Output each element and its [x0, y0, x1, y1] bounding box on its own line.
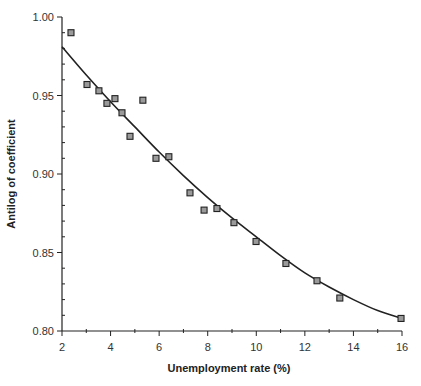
x-tick-label: 2 [59, 341, 65, 353]
y-tick-label: 0.90 [33, 168, 54, 180]
data-point-marker [231, 220, 237, 226]
x-tick-label: 10 [250, 341, 262, 353]
data-point-marker [283, 260, 289, 266]
y-tick-label: 0.95 [33, 90, 54, 102]
data-point-marker [84, 82, 90, 88]
data-point-marker [253, 239, 259, 245]
x-axis-title: Unemployment rate (%) [168, 362, 291, 374]
data-point-marker [68, 30, 74, 36]
x-tick-label: 14 [347, 341, 359, 353]
data-point-marker [314, 278, 320, 284]
x-tick-label: 8 [205, 341, 211, 353]
y-tick-label: 1.00 [33, 11, 54, 23]
data-point-marker [119, 110, 125, 116]
data-point-marker [104, 100, 110, 106]
x-tick-label: 16 [396, 341, 408, 353]
y-axis-title: Antilog of coefficient [5, 119, 17, 229]
data-point-marker [337, 295, 343, 301]
x-tick-label: 12 [299, 341, 311, 353]
data-point-marker [112, 96, 118, 102]
data-point-marker [153, 155, 159, 161]
x-tick-label: 4 [108, 341, 114, 353]
data-point-marker [398, 315, 404, 321]
y-tick-label: 0.80 [33, 325, 54, 337]
x-tick-label: 6 [156, 341, 162, 353]
plot-area [62, 30, 404, 322]
data-point-marker [166, 154, 172, 160]
data-point-marker [140, 97, 146, 103]
data-point-marker [96, 88, 102, 94]
y-tick-label: 0.85 [33, 247, 54, 259]
fitted-curve [62, 47, 402, 319]
data-point-marker [127, 133, 133, 139]
axes: 0.800.850.900.951.00 246810121416 [33, 11, 409, 353]
scatter-chart: 0.800.850.900.951.00 246810121416 Unempl… [0, 0, 421, 386]
data-point-marker [214, 206, 220, 212]
x-ticks: 246810121416 [59, 329, 408, 353]
y-ticks: 0.800.850.900.951.00 [33, 11, 65, 337]
data-point-marker [201, 207, 207, 213]
data-point-marker [187, 190, 193, 196]
